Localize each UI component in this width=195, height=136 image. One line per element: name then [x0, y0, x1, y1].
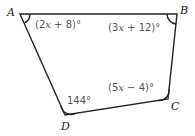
- quadrilateral-diagram: A B C D (2x + 8)° (3x + 12)° (5x − 4)° 1…: [0, 0, 195, 136]
- angle-label-D: 144°: [67, 95, 91, 106]
- vertex-label-B: B: [179, 4, 188, 17]
- angle-label-B: (3x + 12)°: [108, 22, 160, 33]
- angle-label-A: (2x + 8)°: [35, 19, 81, 30]
- angle-arc-A: [25, 14, 31, 23]
- vertex-label-D: D: [60, 120, 70, 133]
- vertex-label-A: A: [6, 6, 15, 19]
- vertex-label-C: C: [171, 100, 180, 113]
- angle-label-C: (5x − 4)°: [108, 82, 154, 93]
- angle-arc-B: [167, 14, 176, 24]
